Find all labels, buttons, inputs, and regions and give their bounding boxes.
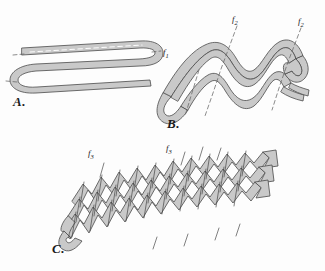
fold-label-f2b-sub: 2: [301, 21, 304, 28]
fold-label-f3a-sub: 3: [91, 153, 94, 160]
panel-a-caption: A.: [13, 94, 26, 110]
fold-label-f2b: f2: [298, 16, 304, 28]
fold-label-f2a: f2: [232, 14, 238, 26]
fold-label-f3a: f3: [88, 148, 94, 160]
panel-b-diagram: [157, 26, 309, 124]
panel-c-caption: C.: [52, 241, 65, 257]
panel-c-diagram: [59, 147, 278, 251]
fold-label-f1-sub: 1: [166, 52, 169, 59]
panel-a-diagram: [6, 41, 163, 93]
fold-label-f2a-sub: 2: [235, 19, 238, 26]
fold-label-f3b: f3: [166, 143, 172, 155]
fold-generations-figure: .band{fill:#c9c9c9;stroke:#4a4a4a;stroke…: [0, 0, 325, 271]
fold-label-f3b-sub: 3: [169, 148, 172, 155]
panel-b-caption: B.: [167, 116, 180, 132]
fold-label-f1: f1: [163, 47, 169, 59]
